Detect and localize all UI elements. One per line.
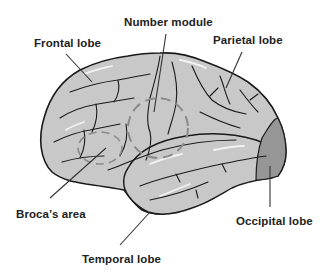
- label-number-module: Number module: [124, 16, 213, 28]
- label-brocas-area: Broca’s area: [16, 208, 86, 220]
- leader-temporal-lobe: [120, 212, 150, 245]
- label-temporal-lobe: Temporal lobe: [82, 253, 161, 265]
- label-occipital-lobe: Occipital lobe: [236, 215, 313, 227]
- label-parietal-lobe: Parietal lobe: [213, 34, 283, 46]
- label-frontal-lobe: Frontal lobe: [34, 37, 101, 49]
